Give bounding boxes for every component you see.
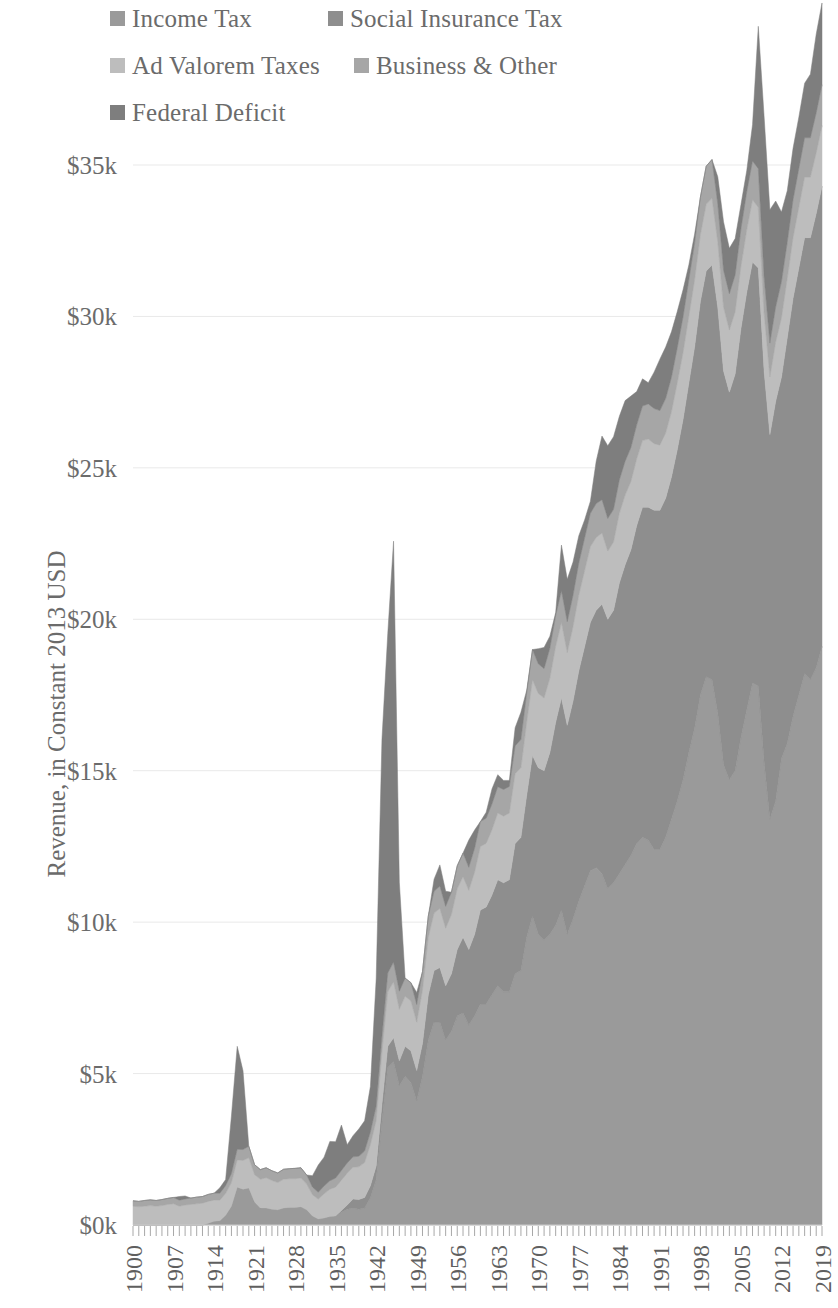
stacked-area-chart: $0k$5k$10k$15k$20k$25k$30k$35k 190019071… bbox=[0, 0, 838, 1308]
x-tick-label: 1942 bbox=[364, 1245, 390, 1293]
x-tick-label: 2012 bbox=[769, 1245, 795, 1293]
x-tick-label: 1984 bbox=[607, 1245, 633, 1293]
x-tick-label: 1956 bbox=[445, 1245, 471, 1293]
area-series-group bbox=[133, 3, 822, 1225]
x-tick-label: 1935 bbox=[324, 1245, 350, 1293]
x-tick-label: 1998 bbox=[688, 1245, 714, 1293]
y-tick-label: $10k bbox=[67, 909, 118, 936]
y-tick-label: $5k bbox=[80, 1061, 118, 1088]
x-tick-label: 1914 bbox=[202, 1245, 228, 1293]
y-tick-label: $30k bbox=[67, 303, 118, 330]
x-tick-label: 1977 bbox=[567, 1245, 593, 1293]
chart-plot-area: $0k$5k$10k$15k$20k$25k$30k$35k 190019071… bbox=[0, 0, 838, 1308]
x-tick-label: 1970 bbox=[526, 1245, 552, 1293]
y-tick-labels: $0k$5k$10k$15k$20k$25k$30k$35k bbox=[67, 152, 118, 1239]
x-tick-label: 1921 bbox=[243, 1245, 269, 1293]
y-tick-label: $15k bbox=[67, 758, 118, 785]
y-tick-label: $0k bbox=[80, 1212, 118, 1239]
x-tick-label: 2019 bbox=[810, 1245, 836, 1293]
x-tick-labels: 1900190719141921192819351942194919561963… bbox=[121, 1245, 836, 1293]
x-tick-label: 1963 bbox=[486, 1245, 512, 1293]
x-tick-label: 1949 bbox=[405, 1245, 431, 1293]
y-tick-label: $35k bbox=[67, 152, 118, 179]
x-tick-label: 1928 bbox=[283, 1245, 309, 1293]
x-tick-label: 2005 bbox=[729, 1245, 755, 1293]
x-tick-label: 1900 bbox=[121, 1245, 147, 1293]
x-tick-marks bbox=[133, 1226, 822, 1236]
x-tick-label: 1991 bbox=[648, 1245, 674, 1293]
y-tick-label: $25k bbox=[67, 455, 118, 482]
y-tick-label: $20k bbox=[67, 606, 118, 633]
x-tick-label: 1907 bbox=[162, 1245, 188, 1293]
